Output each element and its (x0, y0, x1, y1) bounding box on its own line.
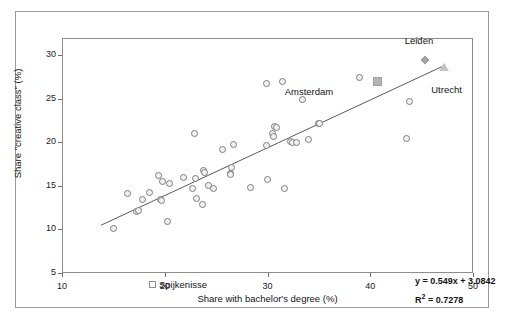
y-tick-label: 20 (34, 136, 56, 146)
data-point-marker (158, 197, 165, 204)
data-point-marker (264, 176, 271, 183)
r-squared-line: R2 = 0.7278 (415, 289, 496, 308)
regression-equation-box: y = 0.549x + 3.0842 R2 = 0.7278 (415, 274, 496, 308)
legend-spijkenisse: Spijkenisse (149, 279, 207, 290)
trendline (63, 39, 474, 274)
annotation-amsterdam: Amsterdam (285, 86, 334, 97)
annotation-utrecht: Utrecht (431, 84, 462, 95)
data-point-marker (210, 185, 217, 192)
legend-square-icon (149, 281, 156, 288)
data-point-marker (305, 136, 312, 143)
data-point-marker (263, 142, 270, 149)
data-point-marker (247, 184, 254, 191)
x-axis-title: Share with bachelor's degree (%) (62, 293, 473, 304)
data-point-marker (293, 139, 300, 146)
y-tick-label: 15 (34, 180, 56, 190)
data-point-marker (180, 174, 187, 181)
data-point-marker (135, 207, 142, 214)
y-tick-label: 30 (34, 49, 56, 59)
data-point-marker (201, 169, 208, 176)
data-point-marker (230, 141, 237, 148)
data-point-marker (439, 63, 449, 71)
data-point-marker (192, 175, 199, 182)
x-tick-label: 30 (255, 281, 281, 291)
y-tick-label: 5 (34, 267, 56, 277)
y-axis-title: Share "creative class" (%) (12, 44, 23, 204)
data-point-marker (406, 98, 413, 105)
data-point-marker (219, 146, 226, 153)
data-point-marker (373, 77, 382, 86)
annotation-leiden: Leiden (405, 35, 434, 46)
data-point-marker (263, 80, 270, 87)
data-point-marker (139, 196, 146, 203)
scatter-chart: Share "creative class" (%) Share with ba… (0, 0, 505, 324)
y-tick-label: 25 (34, 93, 56, 103)
r-squared-exponent: 2 (422, 293, 426, 300)
x-tick-label: 40 (357, 281, 383, 291)
legend-label: Spijkenisse (159, 279, 207, 290)
data-point-marker (146, 189, 153, 196)
regression-equation: y = 0.549x + 3.0842 (415, 274, 496, 289)
y-tick-label: 10 (34, 223, 56, 233)
data-point-marker (124, 190, 131, 197)
data-point-marker (403, 135, 410, 142)
x-tick-label: 10 (49, 281, 75, 291)
data-point-marker (193, 195, 200, 202)
r-squared-value: = 0.7278 (428, 295, 463, 305)
plot-area: LeidenUtrechtAmsterdam Spijkenisse y = 0… (62, 38, 473, 273)
